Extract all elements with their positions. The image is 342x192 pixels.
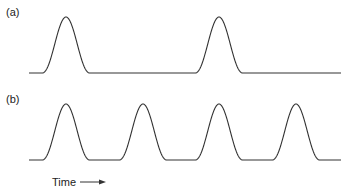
time-axis-label: Time bbox=[52, 176, 76, 188]
panel-b: (b) bbox=[6, 93, 341, 160]
pulse-trace bbox=[29, 104, 341, 160]
pulse-trace bbox=[29, 17, 341, 73]
panel-label: (b) bbox=[6, 93, 19, 105]
pulse-diagram: (a)(b) Time bbox=[0, 0, 342, 192]
panel-label: (a) bbox=[6, 6, 19, 18]
arrow-right-icon bbox=[80, 180, 106, 185]
panel-a: (a) bbox=[6, 6, 341, 73]
